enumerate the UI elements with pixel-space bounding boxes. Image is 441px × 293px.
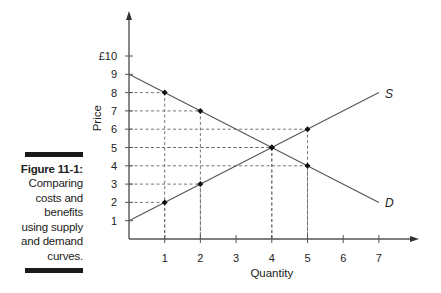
y-tick-label: 9 bbox=[111, 68, 117, 80]
x-tick-label: 2 bbox=[197, 252, 203, 264]
data-point bbox=[197, 181, 203, 187]
y-tick-label: £10 bbox=[99, 50, 117, 62]
data-point bbox=[162, 199, 168, 205]
y-tick-label: 8 bbox=[111, 87, 117, 99]
supply-demand-chart: 1234567123456789£10SDQuantityPrice bbox=[0, 0, 441, 293]
data-point bbox=[269, 145, 275, 151]
x-axis-arrow bbox=[410, 236, 419, 242]
data-point bbox=[305, 126, 311, 132]
x-tick-label: 6 bbox=[340, 252, 346, 264]
curves bbox=[129, 74, 379, 220]
demand-curve-label: D bbox=[385, 196, 394, 210]
x-tick-label: 1 bbox=[162, 252, 168, 264]
x-tick-label: 7 bbox=[376, 252, 382, 264]
y-tick-label: 6 bbox=[111, 123, 117, 135]
guide-lines bbox=[129, 93, 308, 239]
x-axis-title: Quantity bbox=[250, 267, 293, 279]
y-tick-label: 3 bbox=[111, 178, 117, 190]
y-tick-label: 7 bbox=[111, 105, 117, 117]
y-tick-label: 2 bbox=[111, 196, 117, 208]
y-tick-label: 5 bbox=[111, 142, 117, 154]
y-axis-title: Price bbox=[91, 105, 103, 131]
data-point bbox=[162, 90, 168, 96]
supply-curve-label: S bbox=[385, 87, 393, 101]
data-point bbox=[197, 108, 203, 114]
y-axis-arrow bbox=[126, 11, 132, 20]
x-tick-label: 4 bbox=[269, 252, 275, 264]
x-tick-label: 3 bbox=[233, 252, 239, 264]
data-point bbox=[305, 163, 311, 169]
x-tick-label: 5 bbox=[304, 252, 310, 264]
y-tick-label: 1 bbox=[111, 215, 117, 227]
y-tick-label: 4 bbox=[111, 160, 117, 172]
labels: 1234567123456789£10SDQuantityPrice bbox=[91, 50, 394, 279]
